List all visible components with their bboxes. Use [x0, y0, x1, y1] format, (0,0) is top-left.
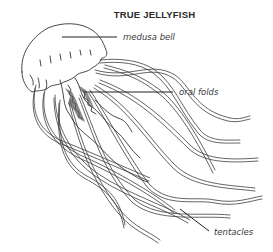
tentacles-group — [33, 59, 262, 243]
figure-title: TRUE JELLYFISH — [18, 9, 273, 20]
label-tentacles: tentacles — [214, 227, 253, 237]
label-oral-folds: oral folds — [179, 87, 218, 97]
jellyfish-illustration: TRUE JELLYFISH medusa bell oral folds te… — [0, 0, 273, 252]
tentacles-leader-line — [180, 209, 209, 231]
label-medusa-bell: medusa bell — [123, 32, 175, 42]
medusa-bell-group — [22, 24, 107, 92]
